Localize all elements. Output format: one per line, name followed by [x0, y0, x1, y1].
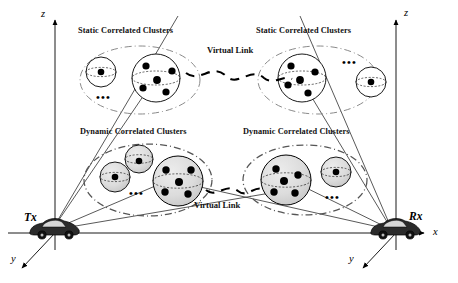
scatterer-dot [168, 67, 175, 74]
heading-static-left: Static Correlated Clusters [78, 27, 173, 35]
scatterer-dot [294, 171, 301, 178]
scatterer-dot [184, 190, 191, 197]
scatterer-dot [284, 81, 291, 88]
axis-label-y-rx: y [349, 254, 354, 265]
axis-label-z-rx: z [404, 8, 408, 19]
axis-label-y-tx: y [11, 254, 16, 265]
scatterer-dot [368, 79, 375, 86]
label-virtual-link-static: Virtual Link [207, 46, 253, 55]
scatterer-dot [333, 169, 340, 176]
ellipsis-dynamic-left: ••• [129, 188, 144, 199]
ellipsis-static-right: ••• [342, 57, 357, 68]
scatterer-dot [304, 89, 311, 96]
cluster-sphere-small [356, 67, 386, 97]
cluster-sphere-large [132, 54, 180, 102]
scatterer-dot [311, 68, 318, 75]
label-rx: Rx [409, 211, 422, 223]
scatterer-dot [287, 62, 294, 69]
cluster-group-dynamic-left [100, 145, 203, 206]
diagram-svg [0, 0, 458, 283]
cluster-sphere-large [278, 54, 326, 102]
ellipsis-dynamic-right: ••• [325, 192, 340, 203]
ellipsis-static-left: ••• [96, 92, 111, 103]
scatterer-dot [136, 158, 143, 165]
scatterer-dot [270, 188, 277, 195]
virtual-link-dynamic-path [206, 188, 265, 193]
cluster-sphere-large [153, 156, 203, 206]
scatterer-dot [161, 188, 168, 195]
scatterer-dot [153, 76, 161, 84]
scatterer-dot [175, 178, 183, 186]
heading-dynamic-right: Dynamic Correlated Clusters [243, 128, 350, 136]
scatterer-dot [272, 165, 279, 172]
scatterer-dot [142, 62, 149, 69]
scatterer-dot [162, 88, 169, 95]
scatterer-dot [296, 76, 304, 84]
cluster-sphere-small [86, 57, 116, 87]
cluster-group-static-right [278, 54, 386, 102]
scatterer-dot [98, 69, 105, 76]
axis-label-z-tx: z [41, 9, 45, 20]
figure-canvas: Static Correlated Clusters Static Correl… [0, 0, 458, 283]
heading-dynamic-left: Dynamic Correlated Clusters [80, 128, 187, 136]
label-tx: Tx [24, 212, 37, 224]
heading-static-right: Static Correlated Clusters [256, 27, 351, 35]
label-virtual-link-dynamic: Virtual Link [194, 201, 240, 210]
cluster-sphere-small [100, 162, 130, 192]
scatterer-dot [187, 166, 194, 173]
virtual-link-static-path [186, 71, 292, 81]
cluster-sphere-small [125, 145, 153, 173]
axis-label-x: x [433, 227, 438, 238]
scatterer-dot [280, 177, 288, 185]
scatterer-dot [139, 84, 146, 91]
cluster-sphere-small [321, 157, 351, 187]
scatterer-dot [291, 189, 298, 196]
scatterer-dot [162, 166, 169, 173]
cluster-sphere-large [261, 155, 311, 205]
scatterer-dot [112, 174, 119, 181]
